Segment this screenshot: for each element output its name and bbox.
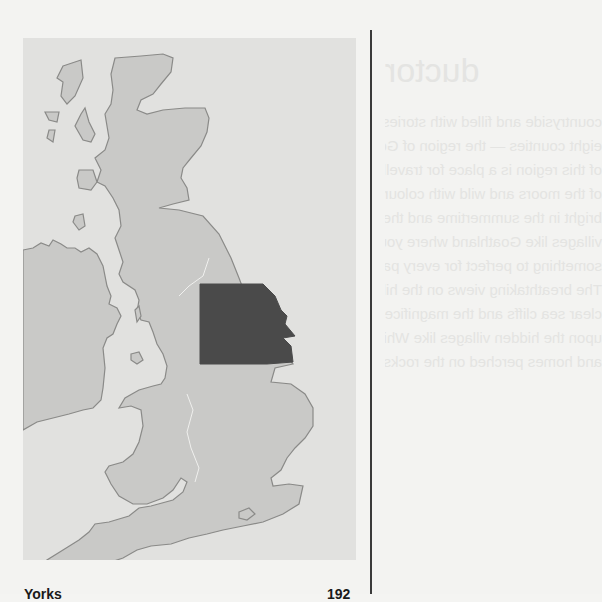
bleed-heading: ductor (385, 40, 602, 100)
page-number: 192 (327, 586, 350, 602)
anglesey (131, 352, 143, 364)
bleed-line: upon the hidden villages like Whitby and… (385, 326, 602, 350)
island (57, 60, 83, 104)
ireland-landmass (23, 240, 121, 430)
bleed-line: something to perfect for every passenger… (385, 254, 602, 278)
bleed-line: clear sea cliffs and the magnificent coa… (385, 302, 602, 326)
island (47, 130, 55, 142)
yorkshire-highlight (200, 284, 295, 364)
bleed-line: of the moors and wild with colour in lat… (385, 182, 602, 206)
island (73, 214, 85, 230)
island (75, 108, 95, 142)
column-divider (370, 30, 372, 594)
uk-map (23, 38, 356, 560)
region-caption: Yorks (24, 586, 62, 602)
bleed-line: of this region is a place for travellers… (385, 158, 602, 182)
bleed-line: bright in the summertime and the towns a… (385, 206, 602, 230)
show-through-text: ductor countryside and filled with stori… (385, 40, 602, 374)
bleed-line: countryside and filled with stories of q… (385, 110, 602, 134)
map-panel (23, 38, 356, 560)
island (45, 112, 59, 122)
bleed-line: and homes perched on the rocks like Robi… (385, 350, 602, 374)
bleed-line: The breathtaking views on the hills remi… (385, 278, 602, 302)
bleed-line: eight counties — the region of God's Own… (385, 134, 602, 158)
bleed-line: villages like Goathland where you can wa… (385, 230, 602, 254)
island (77, 170, 97, 190)
